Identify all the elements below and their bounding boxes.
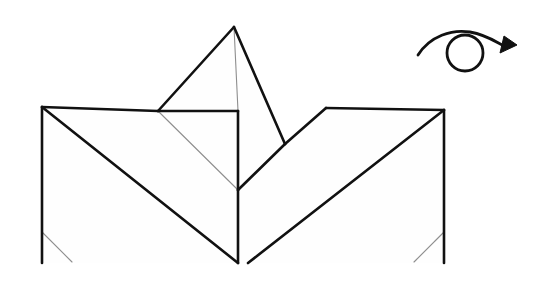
turn-over-arrow (418, 31, 517, 71)
turn-over-arrowhead-icon (500, 36, 517, 53)
origami-figure-svg (0, 0, 549, 285)
paper-faces (42, 27, 444, 263)
origami-figure-container (0, 0, 549, 285)
turn-over-circle-icon (447, 35, 483, 71)
